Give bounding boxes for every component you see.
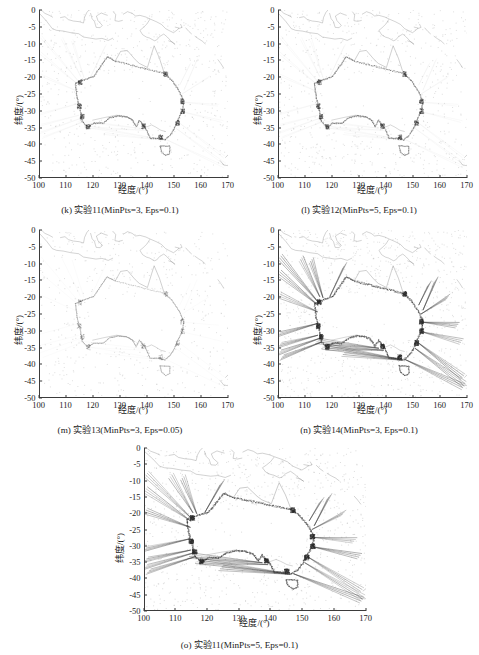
shipping-lane [147,539,190,547]
shipping-lane [279,324,317,337]
y-tick-mark-n-6 [278,330,281,331]
y-tick-label-k-4: -20 [24,73,38,82]
shipping-lane [421,112,461,121]
coastline-layer [40,230,228,386]
inland-feature [92,335,134,341]
x-axis-label-l: 经度/(°) [278,183,467,196]
shipping-lane [72,39,83,78]
y-tick-label-m-1: -5 [28,243,38,252]
shipping-lane [414,348,465,381]
x-tick-mark-l-5 [412,175,413,178]
island-coastline [299,230,328,243]
shipping-lane [147,508,190,527]
island-coastline [60,10,89,23]
shipping-lane [421,332,460,343]
y-tick-label-l-6: -30 [263,107,277,116]
y-tick-label-k-1: -5 [28,23,38,32]
shipping-lane [279,104,317,116]
shipping-lane [422,102,458,104]
x-tick-mark-m-4 [146,395,147,398]
y-axis-label-n: 纬度/(°) [250,315,263,345]
island-coastline [219,380,227,385]
island-coastline [60,230,89,243]
y-tick-mark-m-6 [39,330,42,331]
y-tick-label-o-9: -45 [129,590,143,599]
y-tick-label-k-7: -35 [24,123,38,132]
shipping-lane [307,557,364,588]
x-tick-mark-m-7 [227,395,228,398]
y-tick-label-n-0: 0 [270,226,277,235]
x-tick-mark-m-6 [200,395,201,398]
shipping-lane [40,38,79,83]
y-tick-mark-n-5 [278,314,281,315]
shipping-lane [91,44,106,76]
shipping-lane-layer [279,36,465,168]
y-tick-mark-l-3 [278,60,281,61]
y-tick-mark-k-8 [39,144,42,145]
shipping-lane [166,140,225,166]
coastline-layer [40,10,228,166]
shipping-lane [312,547,360,556]
shipping-lane [40,76,79,92]
shipping-lane [405,360,466,385]
australia-coastline [75,266,183,360]
panel-row-1: 0-5-10-15-20-25-30-35-40-45-501001101201… [0,0,479,220]
plot-area-k: 0-5-10-15-20-25-30-35-40-45-501001101201… [39,10,228,178]
shipping-lane [344,353,402,361]
y-tick-mark-l-0 [278,10,281,11]
australia-coastline [75,46,183,140]
shipping-lane [178,122,224,158]
shipping-lane [280,324,316,332]
x-tick-mark-n-4 [385,395,386,398]
x-tick-mark-l-6 [439,175,440,178]
shipping-lane [418,281,431,305]
y-tick-mark-l-8 [278,144,281,145]
y-tick-label-k-8: -40 [24,140,38,149]
y-tick-label-m-7: -35 [24,343,38,352]
plot-area-n: 0-5-10-15-20-25-30-35-40-45-501001101201… [278,230,467,398]
x-tick-mark-o-6 [333,608,334,611]
shipping-lane [280,335,318,344]
y-tick-label-o-3: -15 [129,493,143,502]
noise-scatter [280,230,467,397]
island-coastline [352,12,361,22]
shipping-lane [342,134,402,140]
island-coastline [185,28,191,34]
shipping-lane [183,59,197,91]
island-coastline [41,230,53,237]
shipping-lane [280,115,318,124]
island-coastline [90,13,107,28]
island-coastline [194,36,205,44]
island-coastline [225,365,228,377]
shipping-lane [324,345,398,359]
map-scatter-l [279,10,467,177]
shipping-lane [40,74,78,92]
island-coastline [456,59,462,68]
island-coastline [194,256,205,264]
y-tick-mark-k-7 [39,127,42,128]
shipping-lane [145,539,189,548]
shipping-lane [87,129,144,131]
x-tick-mark-m-3 [119,395,120,398]
x-tick-mark-o-4 [270,608,271,611]
y-tick-mark-m-3 [39,280,42,281]
panel-caption-l: (l) 实验12(MinPts=5, Eps=0.1) [240,202,479,216]
y-tick-mark-o-9 [144,594,147,595]
shipping-lane [324,125,398,139]
island-coastline [242,450,308,470]
x-tick-mark-k-0 [38,175,39,178]
shipping-lane [281,122,322,139]
y-tick-mark-m-8 [39,364,42,365]
shipping-lane [182,112,221,123]
x-tick-mark-o-3 [238,608,239,611]
shipping-lane [422,102,457,106]
y-tick-label-m-6: -30 [24,327,38,336]
y-tick-mark-l-2 [278,43,281,44]
shipping-lane [280,270,317,305]
noise-points-layer [145,448,366,610]
panel-caption-o: (o) 实验11(MinPts=5, Eps=0.1) [100,637,380,651]
y-tick-label-n-8: -40 [263,360,277,369]
y-tick-mark-k-1 [39,26,42,27]
panel-caption-n: (n) 实验14(MinPts=3, Eps=0.1) [240,422,479,436]
island-coastline [217,59,223,68]
